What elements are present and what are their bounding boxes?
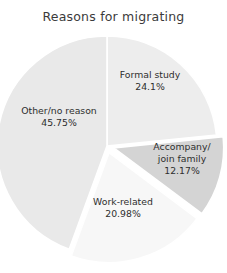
slice-label-work-related: Work-related 20.98% bbox=[74, 196, 172, 220]
slice-value-formal-study: 24.1% bbox=[104, 81, 196, 93]
slice-name-work-related: Work-related bbox=[74, 196, 172, 208]
slice-name-other-no-reason: Other/no reason bbox=[8, 105, 110, 117]
pie-chart-figure: Reasons for migrating Formal study 24.1%… bbox=[0, 0, 227, 273]
pie-chart-canvas bbox=[0, 0, 227, 273]
slice-name-formal-study: Formal study bbox=[104, 69, 196, 81]
slice-label-formal-study: Formal study 24.1% bbox=[104, 69, 196, 93]
slice-name-accompany-line2: join family bbox=[142, 153, 222, 165]
slice-label-accompany-join-family: Accompany/ join family 12.17% bbox=[142, 141, 222, 178]
slice-value-work-related: 20.98% bbox=[74, 208, 172, 220]
slice-value-other-no-reason: 45.75% bbox=[8, 117, 110, 129]
slice-name-accompany-line1: Accompany/ bbox=[142, 141, 222, 153]
slice-label-other-no-reason: Other/no reason 45.75% bbox=[8, 105, 110, 129]
slice-value-accompany-join-family: 12.17% bbox=[142, 165, 222, 177]
